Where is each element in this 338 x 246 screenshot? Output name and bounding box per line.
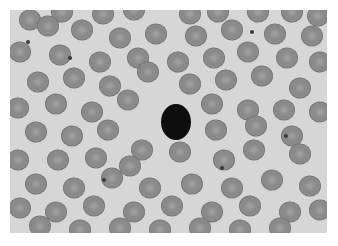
red-blood-cell <box>27 72 49 93</box>
red-blood-cell <box>299 176 321 197</box>
red-blood-cell <box>97 120 119 141</box>
blood-smear-image <box>10 10 327 233</box>
stained-cell <box>161 104 191 140</box>
red-blood-cell <box>179 74 201 95</box>
red-blood-cell <box>47 150 69 171</box>
red-blood-cell <box>201 94 223 115</box>
red-blood-cell <box>61 126 83 147</box>
red-blood-cell <box>264 24 286 45</box>
debris-particle <box>68 56 72 60</box>
red-blood-cell <box>101 168 123 189</box>
debris-particle <box>26 40 30 44</box>
red-blood-cell <box>83 196 105 217</box>
red-blood-cell <box>10 198 31 219</box>
red-blood-cell <box>49 45 71 66</box>
red-blood-cell <box>63 178 85 199</box>
red-blood-cell <box>109 28 131 49</box>
red-blood-cell <box>273 100 295 121</box>
red-blood-cell <box>243 140 265 161</box>
debris-particle <box>250 30 254 34</box>
red-blood-cell <box>99 76 121 97</box>
red-blood-cell <box>10 42 31 63</box>
red-blood-cell <box>167 52 189 73</box>
red-blood-cell <box>213 150 235 171</box>
red-blood-cell <box>85 148 107 169</box>
red-blood-cell <box>137 62 159 83</box>
red-blood-cell <box>181 174 203 195</box>
red-blood-cell <box>301 26 323 47</box>
red-blood-cell <box>25 174 47 195</box>
red-blood-cell <box>205 120 227 141</box>
red-blood-cell <box>203 48 225 69</box>
red-blood-cell <box>161 196 183 217</box>
red-blood-cell <box>119 156 141 177</box>
micrograph <box>10 10 327 233</box>
red-blood-cell <box>237 42 259 63</box>
red-blood-cell <box>117 90 139 111</box>
red-blood-cell <box>261 170 283 191</box>
red-blood-cell <box>139 178 161 199</box>
red-blood-cell <box>289 78 311 99</box>
debris-particle <box>284 134 288 138</box>
red-blood-cell <box>221 20 243 41</box>
red-blood-cell <box>221 178 243 199</box>
red-blood-cell <box>63 68 85 89</box>
red-blood-cell <box>239 196 261 217</box>
red-blood-cell <box>276 48 298 69</box>
red-blood-cell <box>37 16 59 37</box>
red-blood-cell <box>71 20 93 41</box>
red-blood-cell <box>185 26 207 47</box>
red-blood-cell <box>25 122 47 143</box>
red-blood-cell <box>145 24 167 45</box>
red-blood-cell <box>245 116 267 137</box>
debris-particle <box>220 166 224 170</box>
red-blood-cell <box>45 94 67 115</box>
red-blood-cell <box>123 202 145 223</box>
red-blood-cell <box>89 52 111 73</box>
red-blood-cell <box>289 144 311 165</box>
red-blood-cell <box>81 102 103 123</box>
red-blood-cell <box>251 66 273 87</box>
red-blood-cell <box>169 142 191 163</box>
debris-particle <box>102 178 106 182</box>
red-blood-cell <box>215 70 237 91</box>
